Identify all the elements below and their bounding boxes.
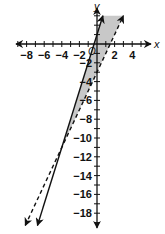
y-tick-label: −10 xyxy=(73,132,92,144)
x-tick-label: 4 xyxy=(129,49,136,61)
x-tick-label: −6 xyxy=(38,49,51,61)
y-axis-label: y xyxy=(93,0,101,12)
y-tick-label: −14 xyxy=(73,170,93,182)
y-tick-label: −18 xyxy=(73,207,92,219)
y-tick-label: −16 xyxy=(73,188,92,200)
x-tick-label: −8 xyxy=(20,49,33,61)
x-tick-label: 2 xyxy=(112,49,118,61)
origin-label: O xyxy=(88,46,96,57)
inequality-graph: −8−6−4−224 −2−4−6−8−10−12−14−16−18 x y O xyxy=(0,0,165,234)
y-tick-label: −12 xyxy=(73,151,92,163)
x-axis-label: x xyxy=(153,38,160,50)
x-tick-label: −4 xyxy=(56,49,69,61)
y-tick-label: −8 xyxy=(79,113,92,125)
